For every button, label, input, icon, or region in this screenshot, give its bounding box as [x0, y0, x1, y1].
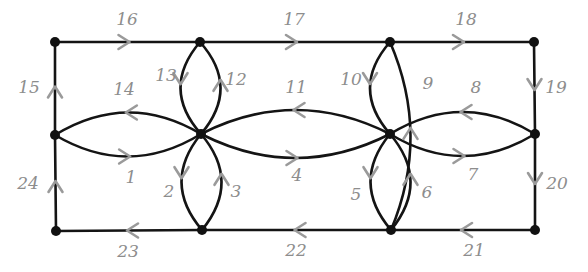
- edge-label-21: 21: [462, 240, 485, 260]
- edge-label-5: 5: [351, 184, 362, 204]
- edge-label-17: 17: [283, 9, 305, 29]
- graph-edge-6: [390, 134, 411, 230]
- graph-edge-3: [201, 134, 222, 230]
- bottom-mid-left-vertex: [197, 225, 207, 235]
- edge-label-2: 2: [163, 181, 175, 201]
- edge-label-15: 15: [18, 77, 40, 97]
- edge-label-1: 1: [126, 167, 137, 187]
- graph-edge-10: [370, 42, 390, 134]
- diagram-canvas: 123456789101112131415161718192021222324: [0, 0, 588, 272]
- middle-left-vertex: [50, 130, 60, 140]
- graph-edge-5: [370, 134, 391, 230]
- top-mid-right-vertex: [385, 37, 395, 47]
- edge-label-24: 24: [16, 173, 39, 193]
- edge-label-23: 23: [116, 241, 139, 261]
- edge-label-12: 12: [225, 69, 247, 89]
- bottom-mid-right-vertex: [386, 225, 396, 235]
- edge-label-18: 18: [455, 9, 477, 29]
- arrowheads-layer: [48, 35, 542, 238]
- vertices-layer: [50, 37, 540, 236]
- edge-label-4: 4: [291, 165, 303, 185]
- edge-label-22: 22: [284, 240, 307, 260]
- graph-edge-4: [201, 134, 390, 158]
- edges-layer: [55, 42, 535, 231]
- top-mid-left-vertex: [195, 37, 205, 47]
- edge-label-3: 3: [231, 181, 242, 201]
- top-left-vertex: [50, 37, 60, 47]
- edge-label-16: 16: [116, 9, 138, 29]
- edge-label-13: 13: [155, 65, 177, 85]
- middle-right-vertex: [530, 129, 540, 139]
- graph-svg: 123456789101112131415161718192021222324: [0, 0, 588, 272]
- edge-label-10: 10: [340, 69, 362, 89]
- graph-edge-14: [55, 112, 201, 135]
- graph-edge-11: [201, 110, 390, 134]
- edge-label-9: 9: [423, 73, 434, 93]
- graph-edge-12: [200, 42, 221, 134]
- edge-label-20: 20: [545, 173, 568, 193]
- edge-label-8: 8: [471, 77, 482, 97]
- middle-mid-right-vertex: [385, 129, 395, 139]
- graph-edge-2: [181, 134, 202, 230]
- edge-label-7: 7: [468, 164, 479, 184]
- middle-mid-left-vertex: [196, 129, 206, 139]
- edge-label-11: 11: [285, 77, 307, 97]
- bottom-left-vertex: [51, 226, 61, 236]
- bottom-right-vertex: [530, 225, 540, 235]
- graph-edge-1: [55, 134, 201, 157]
- graph-edge-13: [180, 42, 201, 134]
- edge-label-6: 6: [422, 182, 433, 202]
- edge-label-19: 19: [545, 77, 567, 97]
- edge-label-14: 14: [113, 79, 135, 99]
- top-right-vertex: [529, 37, 539, 47]
